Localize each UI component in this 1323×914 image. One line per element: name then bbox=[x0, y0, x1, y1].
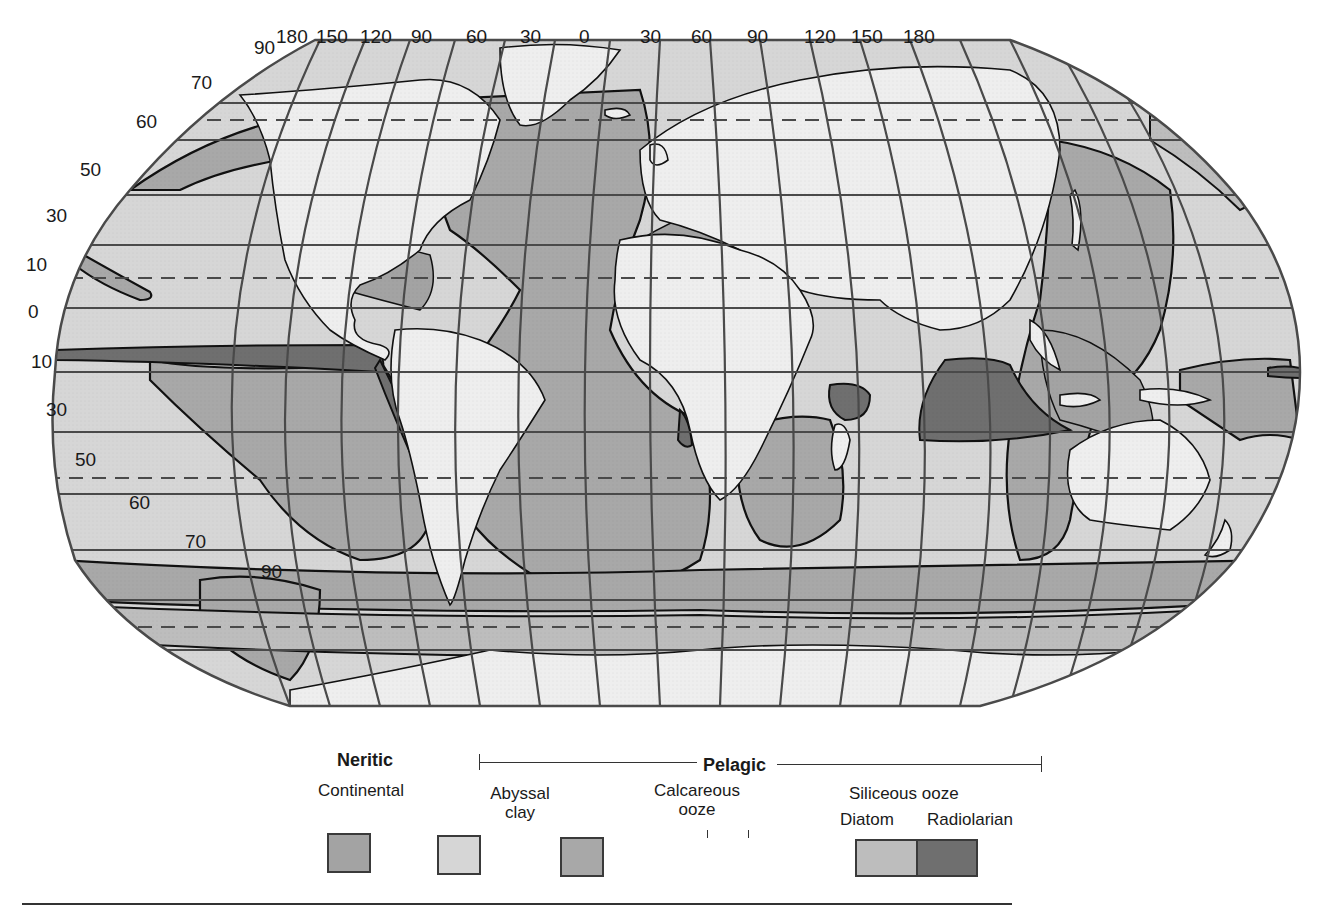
legend-heading-neritic: Neritic bbox=[337, 751, 393, 769]
legend-label-siliceous-ooze: Siliceous ooze bbox=[849, 784, 959, 803]
legend-label-continental: Continental bbox=[318, 781, 404, 800]
lat-label: 70 bbox=[191, 73, 212, 92]
lon-label: 180 bbox=[903, 27, 935, 46]
pelagic-bracket-line-right bbox=[777, 764, 1041, 765]
lat-label: 60 bbox=[129, 493, 150, 512]
lon-label: 180 bbox=[276, 27, 308, 46]
lon-label: 120 bbox=[360, 27, 392, 46]
lat-label: 10 bbox=[26, 255, 47, 274]
lat-label: 30 bbox=[46, 206, 67, 225]
legend-heading-pelagic: Pelagic bbox=[703, 756, 766, 774]
lon-label: 30 bbox=[640, 27, 661, 46]
legend-label-calcareous-ooze-line1: Calcareous bbox=[652, 781, 742, 800]
lon-label: 30 bbox=[520, 27, 541, 46]
pelagic-bracket-line-left bbox=[479, 762, 697, 763]
lon-label: 60 bbox=[691, 27, 712, 46]
swatch-continental bbox=[327, 833, 371, 873]
swatch-radiolarian bbox=[916, 839, 978, 877]
lat-label: 90 bbox=[254, 38, 275, 57]
lon-label: 150 bbox=[316, 27, 348, 46]
legend-label-radiolarian: Radiolarian bbox=[927, 810, 1013, 829]
legend-label-abyssal-clay-line2: clay bbox=[490, 803, 550, 822]
lat-label: 90 bbox=[261, 562, 282, 581]
swatch-calcareous-ooze bbox=[560, 837, 604, 877]
lon-label: 90 bbox=[411, 27, 432, 46]
lat-label: 30 bbox=[46, 400, 67, 419]
footer-rule bbox=[22, 903, 1012, 905]
lat-label: 50 bbox=[75, 450, 96, 469]
swatch-abyssal-clay bbox=[437, 835, 481, 875]
pelagic-bracket-right bbox=[1041, 756, 1042, 772]
radiolarian-tick bbox=[748, 830, 749, 838]
sediment-world-map bbox=[0, 0, 1323, 914]
lat-label: 0 bbox=[28, 302, 39, 321]
legend-label-diatom: Diatom bbox=[840, 810, 894, 829]
lat-label: 10 bbox=[31, 352, 52, 371]
lon-label: 120 bbox=[804, 27, 836, 46]
lat-label: 70 bbox=[185, 532, 206, 551]
swatch-diatom bbox=[855, 839, 917, 877]
lon-label: 60 bbox=[466, 27, 487, 46]
lat-label: 60 bbox=[136, 112, 157, 131]
lon-label: 0 bbox=[579, 27, 590, 46]
diatom-tick bbox=[707, 830, 708, 838]
legend-label-calcareous-ooze-line2: ooze bbox=[652, 800, 742, 819]
legend-label-abyssal-clay-line1: Abyssal bbox=[490, 784, 550, 803]
lat-label: 50 bbox=[80, 160, 101, 179]
lon-label: 150 bbox=[851, 27, 883, 46]
lon-label: 90 bbox=[747, 27, 768, 46]
